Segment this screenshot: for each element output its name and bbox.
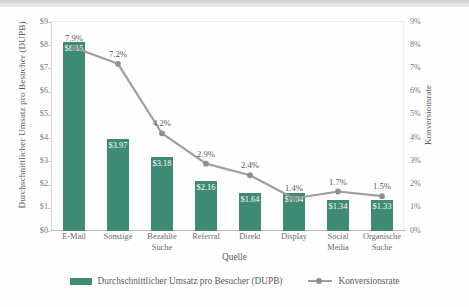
line-point-label: 1.5% [373, 181, 391, 191]
line-marker [115, 61, 121, 67]
line-point-label: 7.2% [109, 49, 127, 59]
line-point-label: 1.4% [285, 183, 303, 193]
y-axis-left-tick-label: $0 [22, 226, 48, 235]
x-axis-category-label: E-Mail [52, 232, 96, 243]
y-axis-right-ticks: 0%1%2%3%4%5%6%7%8%9% [410, 0, 440, 307]
y-axis-right-tick-label: 6% [410, 86, 436, 95]
line-point-label: 2.4% [241, 160, 259, 170]
y-axis-right-tick-label: 2% [410, 179, 436, 188]
line-point-label: 4.2% [153, 118, 171, 128]
x-axis-category-label: OrganischeSuche [360, 232, 404, 253]
y-axis-left-tick-label: $5 [22, 109, 48, 118]
y-axis-right-tick-label: 7% [410, 63, 436, 72]
line-marker [71, 45, 77, 51]
y-axis-right-tick-label: 8% [410, 40, 436, 49]
line-series [52, 22, 404, 231]
legend-line-label: Konversionsrate [338, 276, 399, 286]
y-axis-left-tick-label: $6 [22, 86, 48, 95]
y-axis-right-tick-label: 5% [410, 109, 436, 118]
y-axis-left-tick-label: $7 [22, 63, 48, 72]
y-axis-right-tick-label: 3% [410, 156, 436, 165]
x-axis-category-label: Referral [184, 232, 228, 243]
y-axis-left-ticks: $0$1$2$3$4$5$6$7$8$9 [22, 0, 48, 307]
y-axis-right-tick-label: 0% [410, 226, 436, 235]
legend-item-line: Konversionsrate [308, 276, 399, 286]
line-marker [159, 131, 165, 137]
y-axis-left-tick-label: $8 [22, 40, 48, 49]
y-axis-left-tick-label: $4 [22, 133, 48, 142]
legend-line-swatch-icon [308, 277, 332, 285]
x-axis-category-labels: E-MailSonstigeBezahlteSucheReferralDirek… [52, 232, 404, 264]
chart-legend: Durchschnittlicher Umsatz pro Besucher (… [0, 276, 469, 286]
line-point-label: 7.9% [65, 33, 83, 43]
x-axis-category-label: Sonstige [96, 232, 140, 243]
line-point-label: 1.7% [329, 177, 347, 187]
line-point-label: 2.9% [197, 149, 215, 159]
y-axis-left-tick-label: $1 [22, 202, 48, 211]
legend-item-bar: Durchschnittlicher Umsatz pro Besucher (… [70, 276, 283, 286]
line-marker [291, 196, 297, 202]
y-axis-left-tick-label: $2 [22, 179, 48, 188]
line-marker [203, 161, 209, 167]
y-axis-right-tick-label: 9% [410, 17, 436, 26]
x-axis-category-label: BezahlteSuche [140, 232, 184, 253]
legend-bar-swatch-icon [70, 278, 92, 285]
plot-area: $8.15$3.97$3.18$2.16$1.64$1.64$1.34$1.33… [52, 22, 404, 231]
x-axis-category-label: Display [272, 232, 316, 243]
x-axis-category-label: SocialMedia [316, 232, 360, 253]
legend-bar-label: Durchschnittlicher Umsatz pro Besucher (… [98, 276, 283, 286]
y-axis-right-tick-label: 1% [410, 202, 436, 211]
y-axis-left-tick-mark [48, 231, 51, 232]
y-axis-left-tick-label: $3 [22, 156, 48, 165]
line-marker [335, 189, 341, 195]
line-marker [379, 193, 385, 199]
scan-edge-artifact-secondary [0, 5, 469, 7]
x-axis-category-label: Direkt [228, 232, 272, 243]
y-axis-right-tick-label: 4% [410, 133, 436, 142]
line-marker [247, 172, 253, 178]
chart-page: Durchschnittlicher Umsatz pro Besucher (… [0, 0, 469, 307]
y-axis-left-tick-label: $9 [22, 17, 48, 26]
